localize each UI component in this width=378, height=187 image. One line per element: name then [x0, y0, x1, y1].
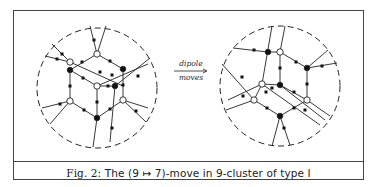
edge-marker-icon	[82, 77, 85, 80]
arrow-label-top: dipole	[179, 59, 203, 68]
white-vertex-icon	[94, 51, 100, 57]
figure-caption: Fig. 2: The (9 ↦ 7)-move in 9-cluster of…	[66, 167, 310, 179]
edge-marker-icon	[83, 109, 86, 112]
black-vertex-icon	[67, 67, 73, 73]
graph-edge	[280, 52, 307, 68]
edge-marker-icon	[69, 85, 72, 88]
white-vertex-icon	[304, 97, 310, 103]
black-vertex-icon	[304, 65, 310, 71]
graph-edge	[307, 100, 330, 116]
edge-marker-icon	[122, 84, 125, 87]
white-vertex-icon	[67, 98, 73, 104]
graph-edge	[262, 84, 320, 125]
graph-edge	[228, 84, 262, 100]
caption-box: Fig. 2: The (9 ↦ 7)-move in 9-cluster of…	[13, 161, 364, 180]
graph-edge	[226, 100, 254, 110]
diagram-canvas: dipole moves	[0, 0, 378, 187]
graph-edge	[280, 116, 290, 145]
edge-marker-icon	[283, 127, 286, 130]
white-vertex-icon	[67, 59, 73, 65]
edge-marker-icon	[241, 76, 244, 79]
graph-edge	[42, 101, 70, 108]
black-vertex-icon	[277, 113, 283, 119]
edge-marker-icon	[137, 75, 140, 78]
graph-edge	[110, 86, 115, 142]
edge-marker-icon	[242, 95, 245, 98]
black-vertex-icon	[277, 82, 283, 88]
caption-prefix: Fig. 2:	[66, 167, 101, 179]
graph-edge	[233, 48, 268, 52]
edge-marker-icon	[111, 74, 114, 77]
edge-marker-icon	[107, 85, 110, 88]
edge-marker-icon	[293, 107, 296, 110]
edge-marker-icon	[99, 71, 102, 74]
black-vertex-icon	[94, 115, 100, 121]
graph-edge	[222, 64, 254, 100]
dipole-moves-arrow: dipole moves	[174, 59, 207, 82]
edge-marker-icon	[81, 61, 84, 64]
edge-marker-icon	[111, 127, 114, 130]
edge-marker-icon	[293, 91, 296, 94]
graph-edge	[115, 58, 150, 86]
edge-marker-icon	[253, 49, 256, 52]
graph-edge	[280, 26, 285, 52]
graph-edge	[93, 118, 97, 147]
white-vertex-icon	[120, 97, 126, 103]
white-vertex-icon	[251, 97, 257, 103]
white-vertex-icon	[277, 49, 283, 55]
edge-marker-icon	[93, 39, 96, 42]
edge-marker-icon	[295, 61, 298, 64]
edge-marker-icon	[279, 67, 282, 70]
edge-marker-icon	[265, 91, 268, 94]
right-diagram-after-move	[220, 26, 340, 146]
edge-marker-icon	[96, 101, 99, 104]
left-diagram-before-move	[37, 26, 157, 148]
edge-marker-icon	[271, 87, 274, 90]
edge-marker-icon	[306, 83, 309, 86]
edge-marker-icon	[61, 53, 64, 56]
edge-marker-icon	[59, 103, 62, 106]
arrow-label-bottom: moves	[179, 73, 203, 82]
caption-text: The (9 ↦ 7)-move in 9-cluster of type I	[105, 167, 311, 179]
edge-marker-icon	[135, 110, 138, 113]
black-vertex-icon	[120, 66, 126, 72]
edge-marker-icon	[266, 107, 269, 110]
graph-edge	[272, 116, 280, 146]
figure: dipole moves Fig. 2: The (9 ↦ 7)-move in…	[0, 0, 378, 187]
graph-edge	[280, 85, 325, 120]
edge-marker-icon	[321, 65, 324, 68]
black-vertex-icon	[112, 83, 118, 89]
edge-marker-icon	[304, 109, 307, 112]
graph-edge	[97, 26, 106, 54]
edge-marker-icon	[109, 60, 112, 63]
edge-marker-icon	[109, 108, 112, 111]
white-vertex-icon	[259, 81, 265, 87]
black-vertex-icon	[265, 49, 271, 55]
edge-marker-icon	[56, 58, 59, 61]
white-vertex-icon	[94, 83, 100, 89]
